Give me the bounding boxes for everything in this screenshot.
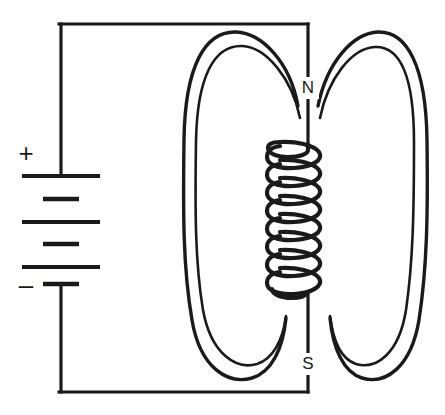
battery [22, 176, 100, 284]
battery-terminal-signs: + – [18, 138, 33, 300]
field-line-right-inner [320, 47, 414, 365]
coil-turn-8 [267, 268, 320, 294]
field-line-right-outer [318, 32, 427, 380]
field-line-left-outer [184, 32, 298, 380]
negative-terminal-label: – [19, 270, 34, 300]
positive-terminal-label: + [18, 138, 33, 168]
north-pole-label: N [302, 78, 314, 97]
electromagnet-diagram: N S + – [0, 0, 445, 415]
solenoid-coil [267, 142, 320, 298]
diagram-canvas: N S + – [0, 0, 445, 415]
south-pole-label: S [302, 354, 313, 373]
